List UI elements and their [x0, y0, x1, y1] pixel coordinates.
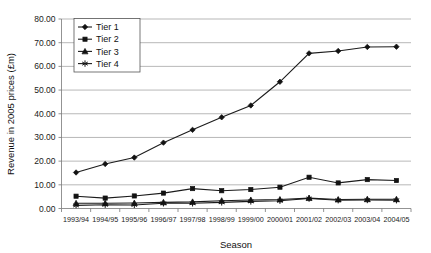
x-tick-label: 2001/02: [296, 215, 322, 224]
legend-label: Tier 1: [96, 22, 119, 32]
marker-square: [336, 181, 340, 185]
x-tick-label: 2003/04: [354, 215, 380, 224]
x-tick-label: 1993/94: [63, 215, 89, 224]
line-chart: 0.0010.0020.0030.0040.0050.0060.0070.008…: [0, 0, 431, 253]
marker-square: [220, 189, 224, 193]
marker-square: [74, 194, 78, 198]
x-tick-label: 2004/05: [383, 215, 409, 224]
y-tick-label: 20.00: [34, 156, 56, 166]
marker-square: [190, 187, 194, 191]
marker-square: [365, 178, 369, 182]
marker-square: [83, 37, 87, 41]
marker-square: [278, 185, 282, 189]
x-tick-label: 1995/96: [121, 215, 147, 224]
x-tick-label: 1996/97: [150, 215, 176, 224]
y-tick-label: 10.00: [34, 180, 56, 190]
y-tick-label: 0.00: [39, 204, 56, 214]
marker-square: [161, 191, 165, 195]
x-tick-label: 2000/01: [267, 215, 293, 224]
legend-label: Tier 3: [96, 47, 119, 57]
y-tick-label: 50.00: [34, 85, 56, 95]
x-tick-label: 1999/00: [238, 215, 264, 224]
marker-square: [132, 194, 136, 198]
marker-square: [394, 178, 398, 182]
y-axis-tick-labels: 0.0010.0020.0030.0040.0050.0060.0070.008…: [34, 14, 56, 214]
x-tick-label: 2002/03: [325, 215, 351, 224]
legend-label: Tier 2: [96, 34, 119, 44]
x-tick-label: 1998/99: [209, 215, 235, 224]
x-tick-label: 1997/98: [180, 215, 206, 224]
y-tick-label: 70.00: [34, 38, 56, 48]
y-tick-label: 40.00: [34, 109, 56, 119]
marker-square: [103, 196, 107, 200]
marker-square: [249, 187, 253, 191]
x-tick-label: 1994/95: [92, 215, 118, 224]
y-tick-label: 60.00: [34, 61, 56, 71]
legend: Tier 1Tier 2Tier 3Tier 4: [74, 19, 140, 73]
marker-square: [307, 175, 311, 179]
y-tick-label: 30.00: [34, 132, 56, 142]
y-axis-title: Revenue in 2005 prices (£m): [5, 53, 16, 175]
chart-canvas: 0.0010.0020.0030.0040.0050.0060.0070.008…: [0, 0, 431, 253]
x-axis-title: Season: [220, 239, 252, 250]
y-tick-label: 80.00: [34, 14, 56, 24]
legend-label: Tier 4: [96, 59, 119, 69]
